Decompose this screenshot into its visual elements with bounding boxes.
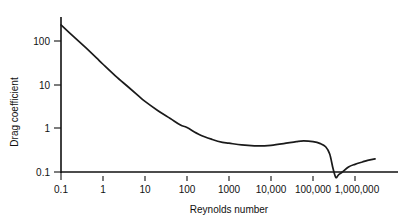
y-tick-marks [54, 41, 61, 172]
x-tick-label-100000: 100,000 [295, 184, 332, 195]
x-tick-label-1: 1 [100, 184, 106, 195]
x-tick-label-1000: 1000 [218, 184, 241, 195]
drag-coefficient-chart: 100 10 1 0.1 Drag coefficient 0.1 1 10 1… [0, 0, 403, 223]
x-tick-label-1000000: 1,000,000 [335, 184, 380, 195]
y-axis-group: 100 10 1 0.1 Drag coefficient [9, 17, 61, 178]
x-tick-label-10: 10 [139, 184, 151, 195]
y-tick-label-0.1: 0.1 [36, 167, 50, 178]
drag-coefficient-curve [61, 25, 375, 178]
y-tick-label-1: 1 [44, 123, 50, 134]
x-tick-marks [61, 172, 355, 181]
y-tick-label-10: 10 [39, 80, 51, 91]
y-tick-label-100: 100 [33, 36, 50, 47]
y-axis-title: Drag coefficient [9, 77, 20, 147]
chart-canvas: 100 10 1 0.1 Drag coefficient 0.1 1 10 1… [0, 0, 403, 223]
x-axis-group: 0.1 1 10 100 1000 10,000 100,000 1,000,0… [54, 172, 398, 215]
x-tick-label-10000: 10,000 [256, 184, 287, 195]
x-tick-label-100: 100 [179, 184, 196, 195]
x-tick-label-0.1: 0.1 [54, 184, 68, 195]
x-axis-title: Reynolds number [190, 204, 269, 215]
